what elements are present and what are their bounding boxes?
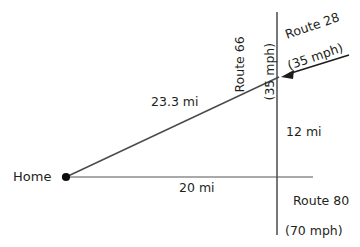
- distance-horizontal-label: 20 mi: [179, 180, 215, 195]
- distance-hypotenuse-label: 23.3 mi: [151, 94, 198, 109]
- distance-vertical-label: 12 mi: [286, 124, 322, 139]
- route-66-speed: (35 mph): [262, 17, 277, 101]
- route-28-speed: (35 mph): [285, 38, 351, 73]
- route-80-label: Route 80 (70 mph): [285, 178, 349, 247]
- route-66-name: Route 66: [232, 36, 247, 92]
- route-28-name: Route 28: [283, 9, 341, 41]
- route-80-name: Route 80: [293, 193, 349, 208]
- home-point-marker: [62, 173, 70, 181]
- route-80-speed: (70 mph): [285, 223, 349, 238]
- home-label: Home: [13, 169, 51, 184]
